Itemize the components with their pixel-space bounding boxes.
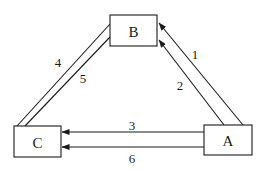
node-c-label: C: [32, 135, 42, 151]
node-c: C: [14, 126, 61, 157]
node-a-label: A: [223, 133, 234, 149]
edge-1-a-to-b: [159, 23, 243, 125]
edge-6-label: 6: [129, 151, 136, 166]
diagram-canvas: A B C 1 2 3 4 5 6: [0, 0, 263, 174]
edge-5-c-to-b: [25, 37, 110, 126]
edge-4-label: 4: [55, 55, 62, 70]
node-b-label: B: [128, 24, 138, 40]
edge-3-label: 3: [129, 118, 136, 133]
edge-5-label: 5: [80, 71, 87, 86]
edge-2-label: 2: [177, 78, 184, 93]
edge-1-label: 1: [192, 47, 199, 62]
edge-labels-layer: 1 2 3 4 5 6: [55, 47, 199, 166]
node-b: B: [110, 15, 157, 46]
edge-4-c-to-b: [17, 24, 110, 126]
node-a: A: [204, 125, 252, 155]
